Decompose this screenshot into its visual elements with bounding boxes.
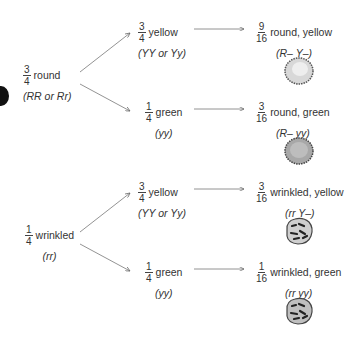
phenotype-round: 34 round (RR or Rr) xyxy=(23,64,71,102)
outcome-wrinkled-green: 116 wrinkled, green (rr yy) xyxy=(256,261,341,299)
phenotype-green-1: 14 green (yy) xyxy=(145,101,182,139)
round-dark-pea-icon xyxy=(283,136,315,166)
arrow-wrinkled-to-yellow xyxy=(80,193,130,232)
outcome-round-yellow: 916 round, yellow (R– Y–) xyxy=(256,21,332,59)
label: wrinkled xyxy=(36,230,75,241)
outcome-round-green: 316 round, green (R– yy) xyxy=(256,101,330,139)
wrinkled-pea-icon xyxy=(283,296,315,326)
fraction: 14 xyxy=(25,224,33,247)
phenotype-yellow-1: 34 yellow (YY or Yy) xyxy=(138,21,186,59)
phenotype-green-2: 14 green (yy) xyxy=(145,261,182,299)
round-smooth-pea-icon xyxy=(283,56,315,86)
genotype: (rr) xyxy=(25,251,74,262)
phenotype-wrinkled: 14 wrinkled (rr) xyxy=(25,224,74,262)
fraction: 34 xyxy=(23,64,31,87)
arrow-round-to-green xyxy=(80,84,130,111)
genotype: (RR or Rr) xyxy=(23,91,71,102)
wrinkled-pea-icon xyxy=(283,216,315,246)
label: round xyxy=(34,70,61,81)
outcome-wrinkled-yellow: 316 wrinkled, yellow (rr Y–) xyxy=(256,181,344,219)
arrow-round-to-yellow xyxy=(80,33,130,72)
phenotype-yellow-2: 34 yellow (YY or Yy) xyxy=(138,181,186,219)
arrow-wrinkled-to-green xyxy=(80,244,130,271)
